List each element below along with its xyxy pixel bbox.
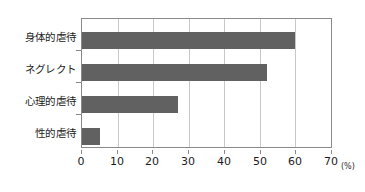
x-axis-label-5: 50 (253, 155, 267, 168)
bar-series (82, 19, 331, 147)
category-label-2: 心理的虐待 (0, 95, 76, 107)
category-label-1: ネグレクト (0, 63, 76, 75)
x-axis-tick-mark-4 (224, 150, 225, 154)
x-axis-label-6: 60 (288, 155, 302, 168)
x-axis-label-3: 30 (181, 155, 195, 168)
x-axis-tick-mark-3 (188, 150, 189, 154)
x-axis-tick-mark-7 (331, 150, 332, 154)
category-axis-labels: 身体的虐待 ネグレクト 心理的虐待 性的虐待 (0, 18, 76, 148)
category-label-0: 身体的虐待 (0, 31, 76, 43)
x-axis-tick-mark-0 (81, 150, 82, 154)
x-axis: 0 10 20 30 40 50 60 70 (%) (0, 150, 365, 170)
x-axis-label-0: 0 (78, 155, 85, 168)
x-axis-label-2: 20 (145, 155, 159, 168)
x-axis-label-4: 40 (217, 155, 231, 168)
bar-1 (82, 64, 267, 81)
x-axis-tick-mark-6 (295, 150, 296, 154)
x-axis-tick-mark-1 (117, 150, 118, 154)
bar-chart: 身体的虐待 ネグレクト 心理的虐待 性的虐待 (0, 0, 365, 192)
bar-3 (82, 128, 100, 145)
bar-2 (82, 96, 178, 113)
x-axis-label-7: 70 (324, 155, 338, 168)
category-label-3: 性的虐待 (0, 127, 76, 139)
x-axis-unit-label: (%) (341, 162, 355, 172)
plot-area (81, 18, 332, 148)
bar-0 (82, 32, 295, 49)
x-axis-tick-mark-2 (152, 150, 153, 154)
x-axis-label-1: 10 (110, 155, 124, 168)
x-axis-tick-mark-5 (260, 150, 261, 154)
